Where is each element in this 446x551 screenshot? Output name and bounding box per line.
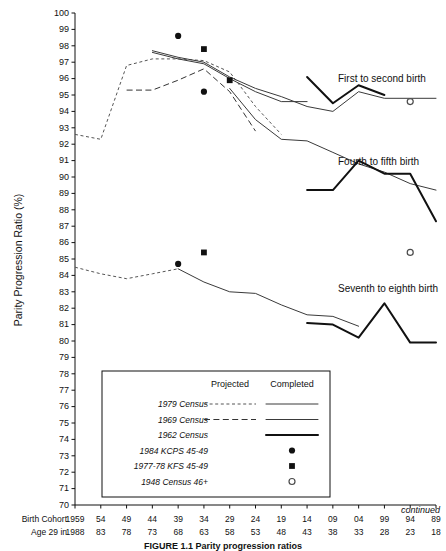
x-tick-age-7: 53 — [251, 527, 261, 537]
legend-marker-square — [289, 463, 295, 469]
legend-row-label-1: 1969 Census — [158, 415, 209, 425]
x-tick-cohort-6: 29 — [225, 514, 235, 524]
y-tick-label-95: 95 — [59, 90, 69, 100]
legend-col-completed: Completed — [270, 379, 314, 389]
x-tick-age-13: 23 — [405, 527, 415, 537]
series-p1-1 — [307, 161, 436, 222]
x-tick-age-5: 63 — [199, 527, 209, 537]
x-tick-cohort-8: 19 — [277, 514, 287, 524]
figure-canvas: 1009998979695949392919089888786858483828… — [0, 0, 446, 551]
x-tick-age-12: 28 — [380, 527, 390, 537]
legend: ProjectedCompleted1979 Census1969 Census… — [102, 371, 330, 497]
series-label-1: Fourth to fifth birth — [338, 156, 419, 167]
y-tick-label-91: 91 — [59, 155, 69, 165]
y-tick-label-81: 81 — [59, 319, 69, 329]
x-tick-cohort-11: 04 — [354, 514, 364, 524]
marker-kfs-square — [201, 250, 207, 256]
marker-kcps-dot — [201, 89, 207, 95]
data-series-group: First to second birthFourth to fifth bir… — [75, 33, 438, 343]
x-tick-age-8: 48 — [277, 527, 287, 537]
legend-col-projected: Projected — [211, 379, 249, 389]
series-label-0: First to second birth — [338, 73, 426, 84]
legend-row-label-2: 1962 Census — [158, 430, 209, 440]
x-tick-age-0: 1988 — [66, 527, 85, 537]
y-tick-label-71: 71 — [59, 483, 69, 493]
legend-marker-dot — [289, 447, 295, 453]
x-tick-cohort-3: 44 — [148, 514, 158, 524]
y-tick-label-84: 84 — [59, 270, 69, 280]
x-tick-cohort-14: 89 — [431, 514, 441, 524]
y-tick-label-100: 100 — [54, 8, 69, 18]
series-p2-0 — [75, 267, 178, 279]
y-axis-title: Parity Progression Ratio (%) — [12, 194, 24, 326]
y-tick-label-94: 94 — [59, 106, 69, 116]
y-tick-label-85: 85 — [59, 254, 69, 264]
y-tick-label-78: 78 — [59, 369, 69, 379]
x-tick-age-6: 58 — [225, 527, 235, 537]
y-tick-label-74: 74 — [59, 434, 69, 444]
series-p2-2 — [307, 303, 436, 342]
series-label-2: Seventh to eighth birth — [338, 283, 438, 294]
x-tick-cohort-10: 09 — [328, 514, 338, 524]
legend-marker-open — [289, 479, 295, 485]
y-tick-label-92: 92 — [59, 139, 69, 149]
marker-kcps-dot — [175, 33, 181, 39]
x-tick-age-14: 18 — [431, 527, 441, 537]
x-tick-cohort-2: 49 — [122, 514, 132, 524]
y-tick-label-77: 77 — [59, 385, 69, 395]
x-tick-cohort-0: 1959 — [66, 514, 85, 524]
legend-row-label-0: 1979 Census — [158, 399, 209, 409]
x-tick-cohort-4: 39 — [173, 514, 183, 524]
y-tick-label-73: 73 — [59, 451, 69, 461]
legend-row-label-5: 1948 Census 46+ — [141, 477, 208, 487]
x-row-label-age-29-in: Age 29 in — [31, 527, 67, 537]
x-tick-cohort-9: 14 — [302, 514, 312, 524]
continued-note: continued — [401, 505, 441, 515]
y-tick-label-86: 86 — [59, 237, 69, 247]
y-tick-label-72: 72 — [59, 467, 69, 477]
footer-group: continuedFIGURE 1.1 Parity progression r… — [144, 505, 441, 551]
y-tick-label-90: 90 — [59, 172, 69, 182]
marker-1948census-open — [407, 99, 413, 105]
y-tick-label-99: 99 — [59, 24, 69, 34]
marker-kcps-dot — [175, 261, 181, 267]
series-p2-1 — [178, 269, 359, 326]
y-tick-label-79: 79 — [59, 352, 69, 362]
x-tick-age-9: 43 — [302, 527, 312, 537]
y-tick-label-76: 76 — [59, 401, 69, 411]
marker-kfs-square — [227, 77, 233, 83]
x-tick-age-2: 78 — [122, 527, 132, 537]
y-tick-label-87: 87 — [59, 221, 69, 231]
y-tick-label-80: 80 — [59, 336, 69, 346]
legend-row-label-3: 1984 KCPS 45-49 — [139, 446, 208, 456]
y-tick-label-98: 98 — [59, 41, 69, 51]
x-tick-cohort-7: 24 — [251, 514, 261, 524]
parity-progression-chart: 1009998979695949392919089888786858483828… — [0, 0, 446, 551]
y-tick-label-70: 70 — [59, 500, 69, 510]
x-tick-age-11: 33 — [354, 527, 364, 537]
x-tick-age-3: 73 — [148, 527, 158, 537]
x-row-label-birth-cohort: Birth Cohort — [22, 514, 68, 524]
y-tick-label-83: 83 — [59, 287, 69, 297]
marker-1948census-open — [407, 249, 413, 255]
y-tick-label-93: 93 — [59, 123, 69, 133]
x-tick-cohort-5: 34 — [199, 514, 209, 524]
y-tick-label-75: 75 — [59, 418, 69, 428]
series-p0-1 — [127, 69, 256, 131]
y-tick-label-82: 82 — [59, 303, 69, 313]
x-tick-cohort-13: 94 — [405, 514, 415, 524]
legend-row-label-4: 1977-78 KFS 45-49 — [134, 461, 208, 471]
x-tick-cohort-12: 99 — [380, 514, 390, 524]
x-tick-age-1: 83 — [96, 527, 106, 537]
x-tick-age-10: 38 — [328, 527, 338, 537]
y-tick-label-88: 88 — [59, 205, 69, 215]
y-tick-label-96: 96 — [59, 73, 69, 83]
x-tick-cohort-1: 54 — [96, 514, 106, 524]
marker-kfs-square — [201, 46, 207, 52]
y-tick-label-89: 89 — [59, 188, 69, 198]
x-tick-age-4: 68 — [173, 527, 183, 537]
y-tick-label-97: 97 — [59, 57, 69, 67]
figure-caption: FIGURE 1.1 Parity progression ratios — [144, 541, 302, 551]
series-p0-0 — [75, 59, 281, 139]
